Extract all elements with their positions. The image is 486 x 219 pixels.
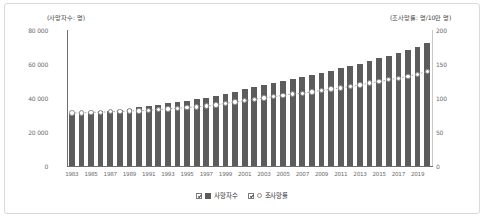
- legend-dot-swatch-icon: [257, 193, 262, 198]
- x-axis-line: [67, 166, 433, 167]
- rate-marker: [194, 104, 199, 109]
- right-tick-label: 0: [436, 163, 466, 170]
- x-tick-label: 2019: [406, 171, 430, 177]
- rate-marker: [309, 89, 314, 94]
- rate-marker: [213, 102, 218, 107]
- legend-item[interactable]: 조사망률: [248, 191, 289, 200]
- rate-marker: [79, 110, 84, 115]
- chart-frame: (사망자수: 명) (조사망률: 명/10만 명) 020 00040 0006…: [4, 3, 480, 214]
- rate-marker: [357, 82, 362, 87]
- rate-marker: [204, 103, 209, 108]
- rate-marker: [300, 91, 305, 96]
- rate-marker: [136, 108, 141, 113]
- rate-marker: [338, 85, 343, 90]
- rate-marker: [69, 110, 74, 115]
- left-tick-label: 80 000: [0, 27, 52, 34]
- legend-bar-swatch-icon: [205, 193, 211, 199]
- rate-marker: [425, 69, 430, 74]
- legend-label: 사망자수: [214, 191, 238, 200]
- rate-marker: [261, 95, 266, 100]
- right-tick-label: 200: [436, 27, 466, 34]
- rate-marker: [127, 108, 132, 113]
- legend-checkbox-icon[interactable]: [248, 193, 254, 199]
- legend-label: 조사망률: [265, 191, 289, 200]
- rate-marker: [252, 97, 257, 102]
- rate-marker: [165, 106, 170, 111]
- rate-marker: [367, 80, 372, 85]
- legend-item[interactable]: 사망자수: [196, 191, 238, 200]
- left-tick-label: 0: [0, 163, 52, 170]
- rate-marker: [405, 74, 410, 79]
- right-tick-label: 50: [436, 129, 466, 136]
- rate-marker: [117, 109, 122, 114]
- plot-area: [67, 30, 432, 166]
- legend-checkbox-icon[interactable]: [196, 193, 202, 199]
- rate-marker: [396, 76, 401, 81]
- right-axis-line: [432, 30, 433, 167]
- rate-marker: [290, 91, 295, 96]
- rate-line: [67, 30, 432, 166]
- rate-marker: [280, 93, 285, 98]
- rate-marker: [232, 99, 237, 104]
- rate-marker: [328, 86, 333, 91]
- rate-marker: [175, 106, 180, 111]
- chart-legend: 사망자수조사망률: [5, 191, 479, 200]
- left-tick-label: 60 000: [0, 61, 52, 68]
- rate-marker: [184, 105, 189, 110]
- right-tick-label: 100: [436, 95, 466, 102]
- left-axis-title: (사망자수: 명): [47, 13, 85, 22]
- rate-marker: [88, 110, 93, 115]
- right-tick-label: 150: [436, 61, 466, 68]
- left-tick-label: 40 000: [0, 95, 52, 102]
- left-tick-label: 20 000: [0, 129, 52, 136]
- right-axis-title: (조사망률: 명/10만 명): [390, 13, 451, 22]
